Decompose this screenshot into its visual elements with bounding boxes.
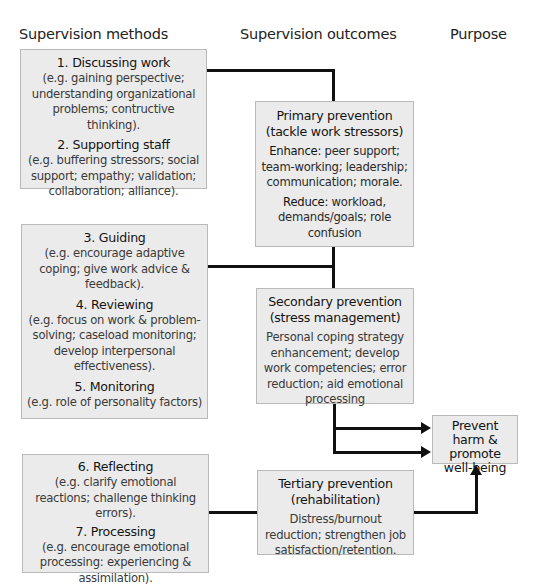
method-description: (e.g. clarify emotional reactions; chall… bbox=[26, 475, 205, 522]
method-guiding: 3. Guiding (e.g. encourage adaptive copi… bbox=[25, 230, 204, 293]
tertiary-heading: Tertiary prevention (rehabilitation) bbox=[264, 476, 407, 508]
methods-box-reflecting-processing: 6. Reflecting (e.g. clarify emotional re… bbox=[22, 454, 209, 573]
method-description: (e.g. role of personality factors) bbox=[25, 395, 204, 411]
method-description: (e.g. encourage emotional processing: ex… bbox=[26, 540, 205, 587]
method-title: 6. Reflecting bbox=[26, 459, 205, 475]
primary-reduce: Reduce: workload, demands/goals; role co… bbox=[259, 195, 410, 242]
method-description: (e.g. encourage adaptive coping; give wo… bbox=[25, 246, 204, 293]
arrow-right-icon bbox=[421, 446, 431, 458]
header-supervision-outcomes: Supervision outcomes bbox=[240, 26, 397, 42]
connector-methods12-v bbox=[332, 69, 335, 101]
outcome-tertiary-prevention: Tertiary prevention (rehabilitation) Dis… bbox=[257, 470, 414, 555]
header-supervision-methods: Supervision methods bbox=[19, 26, 168, 42]
outcome-title: Primary prevention bbox=[259, 108, 410, 124]
primary-enhance: Enhance: peer support; team-working; lea… bbox=[259, 144, 410, 191]
method-title: 3. Guiding bbox=[25, 230, 204, 246]
connector-methods67-h bbox=[209, 511, 257, 514]
method-supporting-staff: 2. Supporting staff (e.g. buffering stre… bbox=[25, 137, 202, 200]
outcome-secondary-prevention: Secondary prevention (stress management)… bbox=[256, 288, 414, 404]
connector-tertiary-v bbox=[475, 474, 478, 514]
secondary-description: Personal coping strategy enhancement; de… bbox=[260, 330, 410, 408]
connector-methods12-h bbox=[207, 69, 334, 72]
connector-arrow1-h bbox=[333, 427, 422, 430]
header-purpose: Purpose bbox=[450, 26, 507, 42]
purpose-prevent-harm: Prevent harm & promote well-being bbox=[432, 415, 518, 464]
methods-box-guiding-reviewing-monitoring: 3. Guiding (e.g. encourage adaptive copi… bbox=[21, 224, 208, 419]
arrow-up-icon bbox=[470, 465, 482, 475]
methods-box-discussing-supporting: 1. Discussing work (e.g. gaining perspec… bbox=[20, 49, 207, 189]
outcome-title: Tertiary prevention bbox=[264, 476, 407, 492]
method-monitoring: 5. Monitoring (e.g. role of personality … bbox=[25, 379, 204, 411]
method-description: (e.g. focus on work & problem-solving; c… bbox=[25, 313, 204, 375]
enhance-label: Enhance: bbox=[269, 144, 321, 158]
reduce-label: Reduce: bbox=[283, 195, 328, 209]
method-title: 1. Discussing work bbox=[25, 55, 202, 71]
outcome-subtitle: (tackle work stressors) bbox=[259, 124, 410, 140]
method-description: (e.g. gaining perspective; understanding… bbox=[25, 71, 202, 133]
method-title: 5. Monitoring bbox=[25, 379, 204, 395]
outcome-title: Secondary prevention bbox=[260, 294, 410, 310]
outcome-primary-prevention: Primary prevention (tackle work stressor… bbox=[255, 101, 414, 247]
outcome-subtitle: (stress management) bbox=[260, 310, 410, 326]
primary-heading: Primary prevention (tackle work stressor… bbox=[259, 108, 410, 140]
method-title: 2. Supporting staff bbox=[25, 137, 202, 153]
method-description: (e.g. buffering stressors; social suppor… bbox=[25, 153, 202, 200]
method-title: 4. Reviewing bbox=[25, 297, 204, 313]
tertiary-description: Distress/burnout reduction; strengthen j… bbox=[264, 512, 407, 559]
method-discussing-work: 1. Discussing work (e.g. gaining perspec… bbox=[25, 55, 202, 133]
arrow-right-icon bbox=[421, 422, 431, 434]
method-reflecting: 6. Reflecting (e.g. clarify emotional re… bbox=[26, 459, 205, 522]
connector-arrow2-h bbox=[333, 451, 422, 454]
method-processing: 7. Processing (e.g. encourage emotional … bbox=[26, 524, 205, 587]
connector-methods345-h bbox=[208, 265, 334, 268]
connector-tertiary-h bbox=[414, 511, 478, 514]
method-reviewing: 4. Reviewing (e.g. focus on work & probl… bbox=[25, 297, 204, 375]
secondary-heading: Secondary prevention (stress management) bbox=[260, 294, 410, 326]
method-title: 7. Processing bbox=[26, 524, 205, 540]
outcome-subtitle: (rehabilitation) bbox=[264, 492, 407, 508]
